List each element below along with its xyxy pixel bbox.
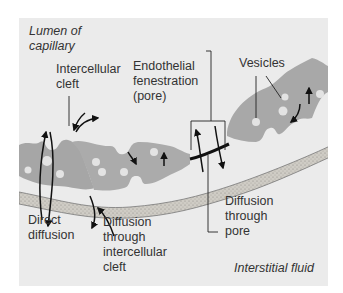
vesicle bbox=[25, 167, 32, 174]
diffusion-pore-label: Diffusion through pore bbox=[225, 194, 273, 239]
vesicle bbox=[282, 94, 289, 101]
vesicle bbox=[98, 168, 106, 176]
vesicle bbox=[120, 168, 128, 176]
lumen-label: Lumen of capillary bbox=[29, 24, 81, 54]
vesicles-label: Vesicles bbox=[239, 56, 285, 71]
interstitial-fluid-label: Interstitial fluid bbox=[234, 261, 314, 276]
vesicle bbox=[279, 107, 288, 116]
vesicle bbox=[56, 170, 64, 178]
vesicle bbox=[316, 90, 324, 98]
vesicle bbox=[150, 148, 158, 156]
vesicle bbox=[252, 118, 260, 126]
vesicle bbox=[42, 156, 52, 166]
direct-diffusion-label: Direct diffusion bbox=[28, 213, 74, 243]
intercellular-cleft-label: Intercellular cleft bbox=[56, 62, 121, 92]
diffusion-cleft-label: Diffusion through intercellular cleft bbox=[103, 215, 167, 275]
fenestration-pore bbox=[190, 144, 229, 159]
vesicle bbox=[92, 158, 100, 166]
endothelial-fenestration-label: Endothelial fenestration (pore) bbox=[133, 59, 198, 104]
pore-arrow-up bbox=[196, 130, 203, 172]
